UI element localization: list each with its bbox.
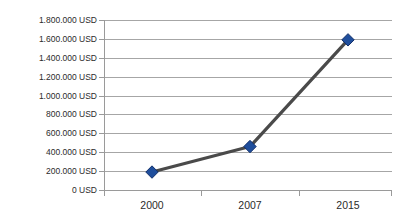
- series-markers: [146, 34, 354, 179]
- chart-container: 1.800.000 USD 1.600.000 USD 1.400.000 US…: [0, 0, 410, 224]
- data-series: [0, 0, 410, 224]
- data-point-2000: [146, 166, 158, 178]
